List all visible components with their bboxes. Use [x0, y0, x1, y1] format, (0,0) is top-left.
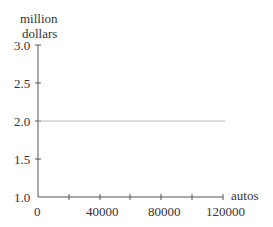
y-tick-label: 3.0: [14, 39, 30, 52]
y-axis-label-line1: million: [20, 12, 58, 25]
y-tick-label: 1.0: [14, 191, 30, 204]
x-axis-label: autos: [231, 189, 258, 202]
x-tick-label: 0: [34, 205, 41, 218]
y-tick-label: 1.5: [14, 153, 30, 166]
y-tick-label: 2.0: [14, 115, 30, 128]
x-tick-label: 120000: [206, 205, 245, 218]
y-tick-label: 2.5: [14, 77, 30, 90]
x-tick-label: 40000: [86, 205, 119, 218]
x-tick-label: 80000: [148, 205, 181, 218]
